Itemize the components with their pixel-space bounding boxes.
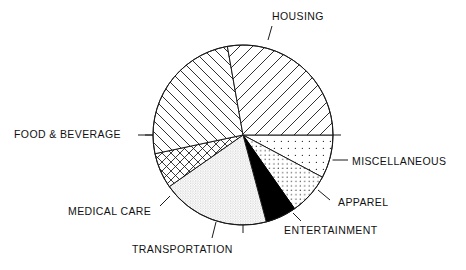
pie-label-transportation: TRANSPORTATION (132, 243, 233, 255)
pie-slice-housing[interactable] (227, 45, 333, 135)
pie-label-medical-care: MEDICAL CARE (68, 205, 151, 217)
leader-medical-care (160, 196, 170, 206)
pie-label-food-beverage: FOOD & BEVERAGE (14, 128, 121, 140)
pie-label-entertainment: ENTERTAINMENT (284, 224, 377, 236)
pie-label-apparel: APPAREL (338, 196, 388, 208)
leader-housing (268, 26, 272, 40)
pie-chart-figure: HOUSING MISCELLANEOUS APPAREL ENTERTAINM… (0, 0, 466, 270)
pie-label-miscellaneous: MISCELLANEOUS (352, 155, 446, 167)
leader-apparel (318, 190, 330, 200)
pie-label-housing: HOUSING (272, 10, 324, 22)
leader-transportation (212, 222, 216, 238)
pie-slice-food-beverage[interactable] (153, 46, 243, 153)
leader-entertainment (293, 213, 301, 221)
pie-slices (153, 45, 333, 225)
